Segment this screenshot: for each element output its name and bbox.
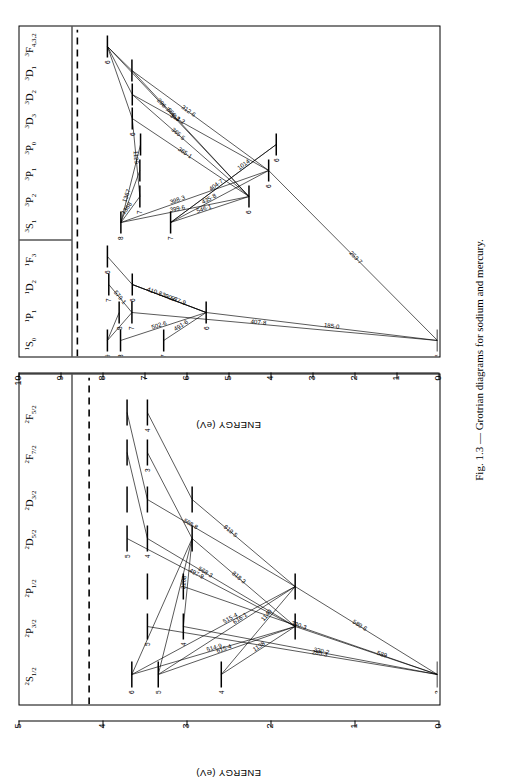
svg-text:5: 5 (154, 690, 161, 694)
axis-tick-label: 5 (224, 375, 233, 397)
svg-text:3: 3 (434, 690, 438, 694)
term-symbol-f-3: 1F3 (23, 253, 38, 266)
svg-text:365·1: 365·1 (176, 145, 193, 160)
axis-tick-label: 3 (182, 723, 191, 745)
svg-text:4: 4 (143, 554, 150, 558)
axis-tick-label: 0 (434, 375, 443, 397)
svg-text:9: 9 (103, 354, 110, 356)
svg-text:6: 6 (245, 210, 252, 214)
term-symbol-s-0: 1S0 (23, 337, 38, 350)
term-symbol-f-11: 3F4,3,2 (23, 33, 38, 56)
axis-line (18, 720, 438, 721)
term-symbol-p-5: 3P2 (23, 193, 38, 206)
svg-text:4: 4 (143, 428, 150, 432)
term-symbol-d-8: 3D3 (23, 113, 38, 128)
svg-text:589·6: 589·6 (351, 617, 368, 631)
svg-text:4: 4 (217, 690, 224, 694)
axis-tick-label: 7 (140, 375, 149, 397)
svg-text:6: 6 (103, 270, 110, 274)
svg-text:7: 7 (160, 354, 167, 356)
term-symbol-p-2: 2P1/2 (23, 579, 38, 597)
svg-text:3: 3 (143, 468, 150, 472)
svg-text:6: 6 (128, 690, 135, 694)
axis-tick-label: 2 (350, 375, 359, 397)
svg-text:1014: 1014 (235, 157, 251, 171)
svg-text:819·5: 819·5 (222, 522, 239, 538)
term-symbol-f-5: 2F7/2 (23, 445, 38, 463)
svg-text:568·8: 568·8 (182, 516, 200, 530)
axis-tick-label: 1 (350, 723, 359, 745)
svg-text:6: 6 (202, 326, 209, 330)
svg-text:589: 589 (376, 648, 388, 658)
axis-tick-label: 2 (266, 723, 275, 745)
term-symbol-s-0: 2S1/2 (23, 667, 38, 685)
term-symbol-d-4: 2D3/2 (23, 490, 38, 510)
svg-text:6: 6 (434, 354, 438, 356)
term-symbol-d-3: 2D5/2 (23, 529, 38, 549)
axis-tick-label: 10 (14, 375, 23, 397)
figure-caption: Fig. 1.3 — Grotrian diagrams for sodium … (472, 239, 484, 481)
term-symbol-p-6: 3P1 (23, 167, 38, 180)
term-symbol-p-1: 2P3/2 (23, 619, 38, 637)
term-symbol-s-4: 3S1 (23, 219, 38, 232)
svg-text:6: 6 (103, 60, 110, 64)
svg-text:6: 6 (128, 298, 135, 302)
svg-text:253·7: 253·7 (348, 249, 364, 265)
svg-text:4: 4 (179, 642, 186, 646)
axis-tick-label: 4 (266, 375, 275, 397)
svg-text:579·1: 579·1 (112, 288, 128, 305)
axis-tick-label: 5 (14, 723, 23, 745)
term-symbol-p-7: 3P0 (23, 141, 38, 154)
svg-text:8: 8 (117, 236, 124, 240)
svg-text:5: 5 (123, 554, 130, 558)
svg-text:7: 7 (136, 210, 143, 214)
svg-text:185·0: 185·0 (323, 321, 340, 330)
axis-tick-label: 3 (308, 375, 317, 397)
svg-text:6: 6 (128, 132, 135, 136)
svg-text:1367: 1367 (120, 187, 131, 203)
axis-tick-label: 8 (98, 375, 107, 397)
term-symbol-d-2: 1D2 (23, 279, 38, 294)
axis-tick-label: 4 (98, 723, 107, 745)
mercury-energy-axis: ENERGY (eV) 109876543210 (18, 357, 438, 403)
sodium-axis-title: ENERGY (eV) (196, 767, 261, 778)
svg-text:502·6: 502·6 (150, 318, 168, 330)
mercury-term-band: 1S01P11D21F33S13P23P13P03D33D23D13F4,3,2 (19, 26, 72, 356)
svg-text:7: 7 (167, 236, 174, 240)
svg-text:7: 7 (128, 326, 135, 330)
svg-text:5: 5 (143, 642, 150, 646)
svg-text:6: 6 (265, 184, 272, 188)
mercury-level-diagram: 678967867678676666185·0253·7296·7312·631… (71, 29, 437, 356)
mercury-plot-area: 678967867678676666185·0253·7296·7312·631… (71, 26, 439, 356)
term-symbol-f-6: 2F5/2 (23, 405, 38, 423)
axis-tick-label: 9 (56, 375, 65, 397)
svg-text:407·8: 407·8 (250, 317, 267, 325)
svg-text:818·3: 818·3 (230, 569, 247, 585)
term-symbol-p-1: 1P1 (23, 309, 38, 322)
svg-text:8: 8 (117, 354, 124, 356)
svg-text:7: 7 (105, 298, 112, 302)
sodium-energy-axis: ENERGY (eV) 543210 (18, 705, 438, 751)
axis-tick-label: 0 (434, 723, 443, 745)
term-symbol-d-10: 3D1 (23, 65, 38, 80)
svg-text:6: 6 (272, 158, 279, 162)
mercury-panel: 1S01P11D21F33S13P23P13P03D33D23D13F4,3,2… (18, 25, 440, 357)
axis-tick-label: 6 (182, 375, 191, 397)
axis-tick-label: 1 (392, 375, 401, 397)
svg-text:312·6: 312·6 (180, 103, 197, 118)
sodium-term-band: 2S1/22P3/22P1/22D5/22D3/22F7/22F5/2 (19, 374, 72, 704)
singlet-triplet-divider (19, 239, 71, 240)
term-symbol-d-9: 3D2 (23, 89, 38, 104)
mercury-axis-title: ENERGY (eV) (196, 419, 261, 430)
svg-text:577·9: 577·9 (169, 294, 187, 306)
